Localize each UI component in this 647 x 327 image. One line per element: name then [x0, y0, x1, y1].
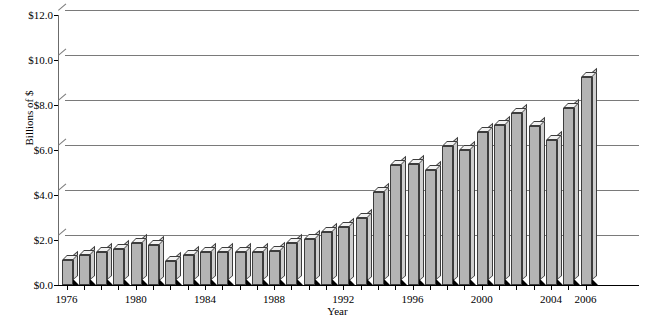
bar: [442, 146, 453, 286]
bar-base-shadow: [176, 279, 182, 285]
x-tick-label: 2000: [471, 293, 493, 305]
gridline-depth-connector: [58, 55, 66, 63]
y-tick-mark: [54, 60, 58, 61]
bar: [148, 245, 159, 286]
bar: [269, 251, 280, 285]
x-tick-mark: [136, 285, 137, 290]
bar-base-shadow: [297, 279, 303, 285]
x-tick-mark: [378, 285, 379, 290]
bar: [62, 260, 73, 285]
gridline: [65, 100, 639, 101]
bar: [321, 232, 332, 285]
bar: [183, 255, 194, 285]
bar-side-face: [436, 161, 441, 280]
y-tick-mark: [54, 195, 58, 196]
gridline-depth-connector: [58, 100, 66, 108]
x-tick-mark: [447, 285, 448, 290]
bar: [477, 132, 488, 285]
gridline: [65, 10, 639, 11]
x-tick-mark: [67, 285, 68, 290]
bar: [373, 192, 384, 285]
bar-side-face: [470, 141, 475, 280]
bar-side-face: [367, 208, 372, 280]
bar: [356, 218, 367, 286]
bar-base-shadow: [436, 279, 442, 285]
gridline-depth-connector: [58, 10, 66, 18]
x-tick-mark: [430, 285, 431, 290]
bar-front-face: [269, 251, 280, 285]
bar-front-face: [494, 125, 505, 285]
bar-side-face: [557, 131, 562, 280]
x-tick-mark: [309, 285, 310, 290]
bar-base-shadow: [90, 279, 96, 285]
bar-front-face: [235, 252, 246, 285]
bar: [96, 252, 107, 285]
x-tick-mark: [413, 285, 414, 290]
x-tick-mark: [568, 285, 569, 290]
x-tick-label: 1992: [332, 293, 354, 305]
bar: [286, 243, 297, 285]
bar-base-shadow: [540, 279, 546, 285]
x-axis-title: Year: [0, 305, 647, 317]
x-tick-mark: [291, 285, 292, 290]
bar-side-face: [332, 223, 337, 280]
bar: [459, 150, 470, 285]
y-tick-label: $12.0: [28, 9, 53, 21]
bar: [217, 252, 228, 285]
bar-base-shadow: [194, 279, 200, 285]
bar-front-face: [252, 252, 263, 285]
bar-base-shadow: [349, 279, 355, 285]
gridline-depth-connector: [58, 190, 66, 198]
bar-base-shadow: [280, 279, 286, 285]
bar-base-shadow: [159, 279, 165, 285]
bar-front-face: [356, 218, 367, 286]
x-tick-mark: [257, 285, 258, 290]
bar-front-face: [113, 249, 124, 285]
bar-base-shadow: [401, 279, 407, 285]
x-tick-mark: [343, 285, 344, 290]
bar-side-face: [419, 154, 424, 280]
bar-front-face: [62, 260, 73, 285]
bar-base-shadow: [453, 279, 459, 285]
x-tick-mark: [188, 285, 189, 290]
x-tick-mark: [274, 285, 275, 290]
bar-front-face: [321, 232, 332, 285]
x-tick-mark: [153, 285, 154, 290]
x-tick-label: 1980: [125, 293, 147, 305]
bar-front-face: [338, 227, 349, 286]
x-tick-label: 1988: [263, 293, 285, 305]
gridline: [65, 55, 639, 56]
bar-side-face: [540, 117, 545, 280]
bar-side-face: [488, 123, 493, 280]
bar-base-shadow: [522, 279, 528, 285]
bar-front-face: [96, 252, 107, 285]
bar-side-face: [505, 116, 510, 280]
bar: [79, 255, 90, 285]
bar-side-face: [401, 155, 406, 280]
bar-front-face: [408, 164, 419, 286]
bar-front-face: [563, 108, 574, 285]
bar-base-shadow: [263, 279, 269, 285]
x-tick-mark: [101, 285, 102, 290]
bar-front-face: [131, 243, 142, 285]
bar-front-face: [373, 192, 384, 285]
bar-base-shadow: [419, 279, 425, 285]
bar-base-shadow: [211, 279, 217, 285]
bar: [235, 252, 246, 285]
plot-area: $0.0$2.0$4.0$6.0$8.0$10.0$12.0 197619801…: [58, 15, 639, 285]
y-tick-label: $8.0: [34, 99, 53, 111]
bar-front-face: [529, 126, 540, 285]
x-tick-mark: [464, 285, 465, 290]
bar-side-face: [384, 182, 389, 280]
bar-front-face: [183, 255, 194, 285]
bar-base-shadow: [142, 279, 148, 285]
bar: [113, 249, 124, 285]
x-tick-mark: [361, 285, 362, 290]
x-tick-mark: [482, 285, 483, 290]
bar-front-face: [477, 132, 488, 285]
bar-base-shadow: [367, 279, 373, 285]
x-tick-mark: [551, 285, 552, 290]
x-tick-label: 1984: [194, 293, 216, 305]
bar-side-face: [574, 99, 579, 280]
bar-base-shadow: [246, 279, 252, 285]
